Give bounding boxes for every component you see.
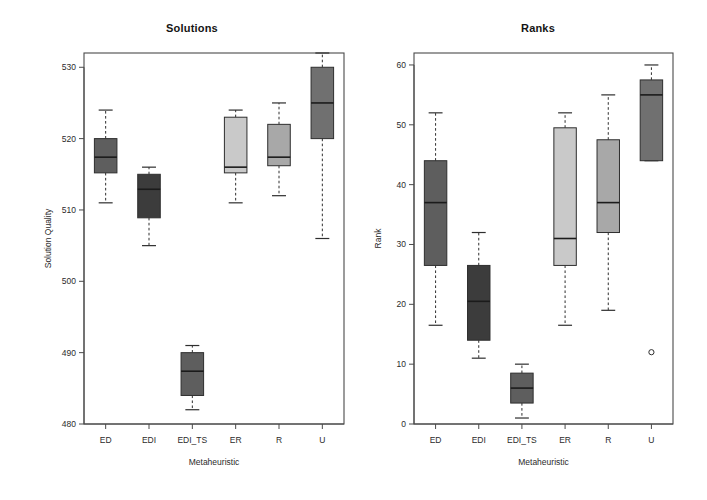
- y-axis-title: Solution Quality: [43, 208, 53, 268]
- y-tick-label: 30: [397, 239, 407, 249]
- x-axis-title: Metaheuristic: [518, 457, 569, 467]
- box-body: [424, 161, 446, 266]
- x-tick-label: EDI: [472, 435, 486, 445]
- boxplot-group: [138, 167, 161, 245]
- y-tick-label: 480: [62, 419, 76, 429]
- box-body: [138, 174, 161, 218]
- y-tick-label: 50: [397, 120, 407, 130]
- plot-frame: [84, 53, 344, 424]
- plot-frame: [414, 53, 673, 424]
- outlier-point: [649, 350, 654, 355]
- y-tick-label: 40: [397, 180, 407, 190]
- y-tick-label: 0: [401, 419, 406, 429]
- boxplot-group: [640, 65, 662, 355]
- y-tick-label: 500: [62, 276, 76, 286]
- boxplot-ranks: 0102030405060EDEDIEDI_TSERRUMetaheuristi…: [353, 0, 707, 500]
- boxplot-group: [311, 53, 334, 239]
- boxplot-group: [597, 95, 619, 310]
- x-tick-label: EDI: [142, 435, 156, 445]
- y-tick-label: 60: [397, 60, 407, 70]
- box-body: [597, 140, 619, 233]
- x-tick-label: EDI_TS: [507, 435, 537, 445]
- panel-solutions: Solutions 480490500510520530EDEDIEDI_TSE…: [0, 0, 360, 500]
- boxplot-group: [511, 364, 533, 418]
- boxplot-group: [224, 110, 247, 203]
- y-tick-label: 490: [62, 348, 76, 358]
- boxplot-group: [94, 110, 117, 203]
- x-axis-title: Metaheuristic: [189, 457, 240, 467]
- box-body: [640, 80, 662, 161]
- x-tick-label: ER: [230, 435, 242, 445]
- x-tick-label: ED: [100, 435, 112, 445]
- panel-ranks: Ranks 0102030405060EDEDIEDI_TSERRUMetahe…: [353, 0, 707, 500]
- x-tick-label: U: [648, 435, 654, 445]
- boxplot-group: [468, 233, 490, 359]
- boxplot-group: [181, 346, 204, 410]
- boxplot-solutions: 480490500510520530EDEDIEDI_TSERRUMetaheu…: [0, 0, 360, 500]
- boxplot-group: [554, 113, 576, 325]
- x-tick-label: R: [605, 435, 611, 445]
- x-tick-label: U: [319, 435, 325, 445]
- boxplot-group: [424, 113, 446, 325]
- y-tick-label: 530: [62, 62, 76, 72]
- boxplot-group: [268, 103, 291, 196]
- y-axis-title: Rank: [373, 228, 383, 249]
- box-body: [554, 128, 576, 266]
- x-tick-label: ER: [559, 435, 571, 445]
- box-body: [94, 139, 117, 173]
- figure-root: Solutions 480490500510520530EDEDIEDI_TSE…: [0, 0, 707, 500]
- box-body: [224, 117, 247, 173]
- x-tick-label: ED: [430, 435, 442, 445]
- y-tick-label: 520: [62, 134, 76, 144]
- box-body: [468, 265, 490, 340]
- y-tick-label: 10: [397, 359, 407, 369]
- box-body: [181, 353, 204, 396]
- box-body: [268, 124, 291, 165]
- y-tick-label: 510: [62, 205, 76, 215]
- y-tick-label: 20: [397, 299, 407, 309]
- x-tick-label: EDI_TS: [177, 435, 207, 445]
- x-tick-label: R: [276, 435, 282, 445]
